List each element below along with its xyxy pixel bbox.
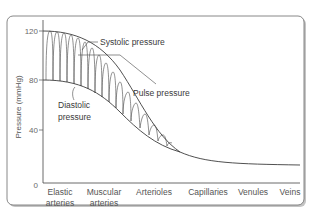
x-label-venules: Venules: [238, 187, 268, 197]
y-axis-title: Pressure (mmHg): [14, 75, 23, 138]
diastolic-label-line2: pressure: [58, 112, 91, 122]
chart-canvas: 120 80 40 0 Pressure (mmHg) Systolic pre…: [0, 0, 314, 224]
systolic-label: Systolic pressure: [100, 37, 165, 47]
y-tick-label-40: 40: [29, 126, 38, 135]
diastolic-label-line1: Diastolic: [58, 100, 91, 110]
x-label-elastic-l1: Elastic: [47, 187, 73, 197]
x-label-arterioles: Arterioles: [136, 187, 172, 197]
x-label-muscular-l1: Muscular: [87, 187, 122, 197]
x-label-capillaries: Capillaries: [188, 187, 228, 197]
y-tick-label-80: 80: [29, 76, 38, 85]
y-tick-label-0: 0: [34, 181, 39, 190]
x-label-veins: Veins: [280, 187, 301, 197]
pulse-label: Pulse pressure: [133, 88, 190, 98]
x-label-elastic-l2: arteries: [46, 198, 74, 208]
y-tick-label-120: 120: [25, 27, 39, 36]
x-label-muscular-l2: arteries: [90, 198, 118, 208]
